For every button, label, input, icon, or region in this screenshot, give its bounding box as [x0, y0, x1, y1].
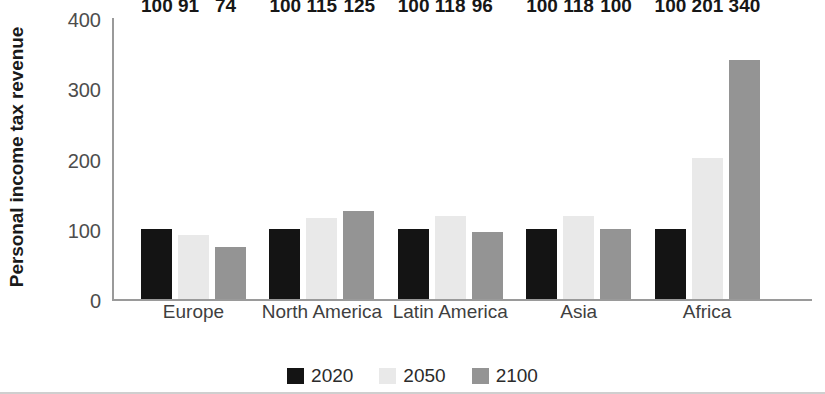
bar-2050[interactable]: 115	[306, 18, 337, 299]
y-axis-title: Personal income tax revenue	[0, 2, 34, 312]
bar-value-label: 100	[141, 0, 173, 15]
bar-rect[interactable]: 100	[398, 229, 429, 299]
x-axis-category-label: Asia	[560, 301, 597, 323]
legend-swatch-icon	[472, 368, 489, 384]
bar-value-label: 100	[600, 0, 632, 15]
bar-rect[interactable]: 118	[563, 216, 594, 299]
bar-group-bars: 1009174	[130, 18, 257, 299]
y-axis-line	[112, 18, 114, 301]
bar-2100[interactable]: 125	[343, 18, 374, 299]
x-axis-category-label: Africa	[683, 301, 732, 323]
x-axis-category-label: North America	[262, 301, 382, 323]
legend-label: 2100	[496, 366, 538, 385]
bar-2020[interactable]: 100	[655, 18, 686, 299]
bar-group: 100115125North America	[258, 18, 385, 299]
bar-group-bars: 100201340	[644, 18, 771, 299]
bar-2100[interactable]: 340	[729, 18, 760, 299]
legend-label: 2020	[311, 366, 353, 385]
bar-2050[interactable]: 91	[178, 18, 209, 299]
bar-group: 100118100Asia	[515, 18, 642, 299]
bar-rect[interactable]: 96	[472, 232, 503, 299]
bar-group-bars: 100115125	[258, 18, 385, 299]
legend-swatch-icon	[379, 368, 396, 384]
bar-2020[interactable]: 100	[398, 18, 429, 299]
bar-group-bars: 10011896	[387, 18, 514, 299]
bar-2050[interactable]: 118	[435, 18, 466, 299]
legend-swatch-icon	[287, 368, 304, 384]
bar-rect[interactable]: 125	[343, 211, 374, 299]
bar-2050[interactable]: 118	[563, 18, 594, 299]
bar-2100[interactable]: 96	[472, 18, 503, 299]
y-axis-tick-label: 300	[68, 79, 101, 102]
bar-value-label: 91	[178, 0, 199, 15]
bar-value-label: 118	[563, 0, 594, 15]
chart-legend: 202020502100	[0, 366, 825, 385]
bar-rect[interactable]: 118	[435, 216, 466, 299]
bar-rect[interactable]: 100	[655, 229, 686, 299]
legend-item[interactable]: 2100	[472, 366, 538, 385]
bar-value-label: 96	[472, 0, 493, 15]
legend-item[interactable]: 2020	[287, 366, 353, 385]
bar-value-label: 74	[215, 0, 236, 15]
bar-value-label: 340	[729, 0, 761, 15]
plot-area: 0100200300400 1009174Europe100115125Nort…	[112, 18, 812, 301]
bar-group: 1009174Europe	[130, 18, 257, 299]
bar-group-bars: 100118100	[515, 18, 642, 299]
bar-group: 100201340Africa	[644, 18, 771, 299]
bar-group: 10011896Latin America	[387, 18, 514, 299]
bar-rect[interactable]: 115	[306, 218, 337, 299]
bar-value-label: 118	[435, 0, 466, 15]
bar-2100[interactable]: 74	[215, 18, 246, 299]
bar-rect[interactable]: 100	[526, 229, 557, 299]
x-axis-category-label: Europe	[163, 301, 224, 323]
x-axis-category-label: Latin America	[393, 301, 508, 323]
y-axis-tick-label: 100	[68, 219, 101, 242]
bar-value-label: 100	[526, 0, 558, 15]
bar-2020[interactable]: 100	[526, 18, 557, 299]
bar-value-label: 100	[269, 0, 301, 15]
bar-2020[interactable]: 100	[141, 18, 172, 299]
y-axis-tick-label: 200	[68, 149, 101, 172]
bar-value-label: 125	[343, 0, 375, 15]
y-axis-tick-label: 0	[90, 290, 101, 313]
bar-rect[interactable]: 100	[269, 229, 300, 299]
bar-rect[interactable]: 91	[178, 235, 209, 299]
y-axis-tick-label: 400	[68, 9, 101, 32]
bar-2020[interactable]: 100	[269, 18, 300, 299]
bar-value-label: 100	[398, 0, 430, 15]
bar-value-label: 201	[692, 0, 724, 15]
legend-label: 2050	[403, 366, 445, 385]
legend-item[interactable]: 2050	[379, 366, 445, 385]
bar-rect[interactable]: 100	[141, 229, 172, 299]
bar-value-label: 115	[306, 0, 337, 15]
bar-rect[interactable]: 201	[692, 158, 723, 299]
bar-rect[interactable]: 340	[729, 60, 760, 299]
bar-rect[interactable]: 74	[215, 247, 246, 299]
bar-2050[interactable]: 201	[692, 18, 723, 299]
bar-2100[interactable]: 100	[600, 18, 631, 299]
bar-chart: Personal income tax revenue 010020030040…	[0, 0, 825, 394]
bar-rect[interactable]: 100	[600, 229, 631, 299]
bar-value-label: 100	[655, 0, 687, 15]
